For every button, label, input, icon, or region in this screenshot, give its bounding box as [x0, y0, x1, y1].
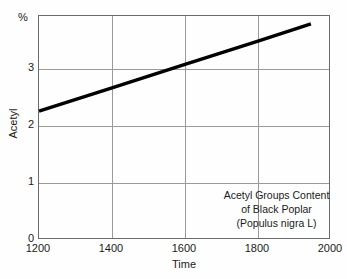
x-tick-label: 1200 — [10, 242, 66, 254]
x-tick-label: 1800 — [229, 242, 285, 254]
x-axis-title: Time — [38, 258, 330, 270]
chart-figure: % Acetyl 3 2 1 0 Acetyl Groups Content o… — [0, 0, 347, 279]
y-tick-label: 2 — [4, 119, 34, 130]
annotation-line-1: Acetyl Groups Content — [189, 188, 347, 202]
y-tick-label: 3 — [4, 62, 34, 73]
x-tick-label: 1400 — [83, 242, 139, 254]
x-tick-label: 2000 — [302, 242, 347, 254]
annotation-line-2: of Black Poplar — [189, 202, 347, 216]
annotation-line-3: (Populus nigra L) — [189, 216, 347, 230]
x-tick-label: 1600 — [156, 242, 212, 254]
y-tick-label: 1 — [4, 176, 34, 187]
y-axis-tick-labels: 3 2 1 0 — [0, 15, 34, 239]
chart-annotation: Acetyl Groups Content of Black Poplar (P… — [189, 188, 347, 230]
plot-area: Acetyl Groups Content of Black Poplar (P… — [38, 15, 330, 239]
x-axis-tick-labels: 12001400160018002000 — [38, 242, 330, 256]
